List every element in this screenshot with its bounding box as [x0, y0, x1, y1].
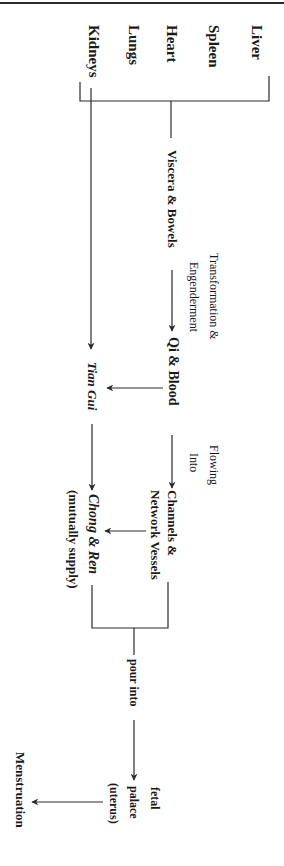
node-chong-ren-note: (mutually supply)	[67, 490, 80, 589]
node-fetal: fetal	[149, 787, 161, 810]
node-uterus: (uterus)	[108, 783, 120, 824]
bottom-bracket	[92, 582, 168, 628]
node-palace: palace	[128, 786, 140, 819]
organ-kidneys: Kidneys	[86, 25, 101, 78]
organ-lungs: Lungs	[126, 25, 141, 65]
edge-label-into: Into	[188, 453, 200, 472]
edge-label-flowing: Flowing	[208, 445, 220, 485]
node-channels: Channels &	[166, 490, 179, 556]
node-qi-blood: Qi & Blood	[166, 337, 180, 405]
node-menstruation: Menstruation	[14, 752, 27, 828]
node-chong-ren: Chong & Ren	[86, 494, 100, 574]
edge-label-pour-into: pour into	[128, 659, 140, 706]
organ-bracket	[80, 76, 269, 101]
node-tian-gui: Tian Gui	[86, 362, 99, 410]
node-viscera-bowels: Viscera & Bowels	[166, 150, 179, 248]
connector-lines	[0, 0, 284, 866]
organ-liver: Liver	[249, 25, 264, 60]
organ-heart: Heart	[164, 25, 179, 62]
organ-spleen: Spleen	[206, 25, 221, 68]
node-network-vessels: Network Vessels	[149, 490, 162, 580]
edge-label-engenderment: Engenderment	[188, 262, 200, 332]
edge-label-transformation: Transformation &	[208, 253, 220, 340]
diagram-canvas: Liver Spleen Heart Lungs Kidneys Viscera…	[0, 0, 284, 866]
